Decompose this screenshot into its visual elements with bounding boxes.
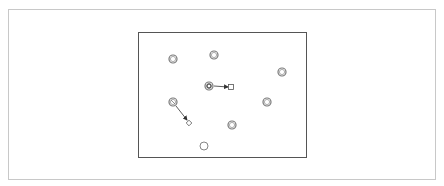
node-double-circle[interactable] — [210, 51, 218, 59]
diagram-canvas — [0, 0, 444, 186]
inner-canvas-box — [139, 33, 307, 158]
node-circle[interactable] — [200, 142, 208, 150]
node-double-circle-bold[interactable] — [205, 82, 213, 90]
node-double-circle-crossed[interactable] — [169, 98, 177, 106]
node-double-circle[interactable] — [169, 55, 177, 63]
node-double-circle[interactable] — [228, 121, 236, 129]
node-double-circle[interactable] — [278, 68, 286, 76]
node-double-circle[interactable] — [263, 98, 271, 106]
node-square[interactable] — [229, 85, 234, 90]
